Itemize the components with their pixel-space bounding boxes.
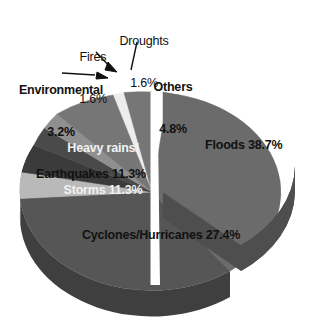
slice-label-others-name: Others: [140, 80, 206, 94]
slice-label-earthquakes: Earthquakes 11.3%: [36, 167, 176, 181]
pie-chart: Droughts 1.6% Fires 1.6% Environmental 3…: [0, 0, 331, 326]
slice-label-environmental-name: Environmental: [2, 83, 120, 97]
slice-label-heavy-rains-line1: Heavy rains/: [48, 141, 158, 155]
slice-label-cyclones: Cyclones/Hurricanes 27.4%: [82, 228, 242, 242]
slice-label-floods: Floods 38.7%: [205, 138, 315, 152]
slice-label-heavy-rains-line2: Storms 11.3%: [48, 183, 158, 197]
